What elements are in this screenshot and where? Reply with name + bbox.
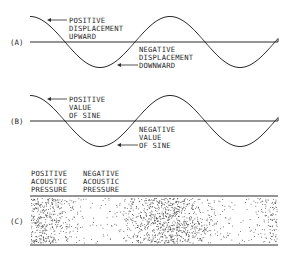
panel-b-negative-annotation: NEGATIVE VALUE OF SINE — [139, 125, 180, 150]
panel-c: POSITIVE ACOUSTIC PRESSURE NEGATIVE ACOU… — [10, 169, 278, 245]
panel-a-negative-arrow — [117, 63, 138, 67]
panel-c-label: (C) — [10, 217, 24, 226]
panel-c-negative-heading: NEGATIVE ACOUSTIC PRESSURE — [83, 169, 124, 194]
panel-c-air-particles — [31, 198, 278, 244]
panel-a-positive-annotation: POSITIVE DISPLACEMENT UPWARD — [69, 16, 128, 41]
panel-a-label: (A) — [10, 38, 24, 47]
panel-b-positive-annotation: POSITIVE VALUE OF SINE — [69, 95, 110, 120]
panel-c-positive-heading: POSITIVE ACOUSTIC PRESSURE — [31, 169, 72, 194]
sound-wave-diagram: (A) POSITIVE DISPLACEMENT UPWARD NEGATIV… — [0, 0, 293, 262]
panel-b: (B) POSITIVE VALUE OF SINE NEGATIVE VALU… — [10, 95, 278, 150]
panel-a-negative-annotation: NEGATIVE DISPLACEMENT DOWNWARD — [139, 45, 198, 70]
panel-a-positive-arrow — [47, 18, 67, 22]
panel-b-negative-arrow — [117, 143, 138, 147]
panel-b-positive-arrow — [47, 97, 67, 101]
panel-a: (A) POSITIVE DISPLACEMENT UPWARD NEGATIV… — [10, 16, 278, 70]
panel-b-label: (B) — [10, 117, 24, 126]
